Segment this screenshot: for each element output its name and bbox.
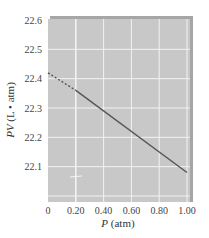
y-axis-unit: (L • atm) bbox=[4, 82, 17, 125]
x-tick-label: 1.00 bbox=[178, 205, 196, 216]
y-axis-var: PV bbox=[4, 123, 16, 139]
x-tick-labels: 00.200.400.600.801.00 bbox=[46, 205, 196, 216]
y-tick-label: 22.6 bbox=[25, 15, 43, 26]
y-tick-labels: 22.122.222.322.422.522.6 bbox=[25, 15, 43, 173]
x-axis-label: P (atm) bbox=[100, 217, 135, 230]
y-tick-label: 22.2 bbox=[25, 132, 43, 143]
y-tick-label: 22.4 bbox=[25, 73, 43, 84]
y-tick-label: 22.1 bbox=[25, 161, 43, 172]
x-tick-label: 0 bbox=[46, 205, 51, 216]
x-axis-unit: (atm) bbox=[108, 217, 135, 230]
pv-vs-p-chart: 22.122.222.322.422.522.6 00.200.400.600.… bbox=[0, 0, 209, 238]
plot-area bbox=[48, 19, 190, 202]
y-tick-label: 22.5 bbox=[25, 44, 43, 55]
x-tick-label: 0.40 bbox=[95, 205, 113, 216]
y-axis-label: PV (L • atm) bbox=[4, 82, 17, 139]
x-tick-label: 0.80 bbox=[150, 205, 168, 216]
x-tick-label: 0.20 bbox=[67, 205, 85, 216]
y-tick-label: 22.3 bbox=[25, 103, 43, 114]
x-tick-label: 0.60 bbox=[123, 205, 141, 216]
